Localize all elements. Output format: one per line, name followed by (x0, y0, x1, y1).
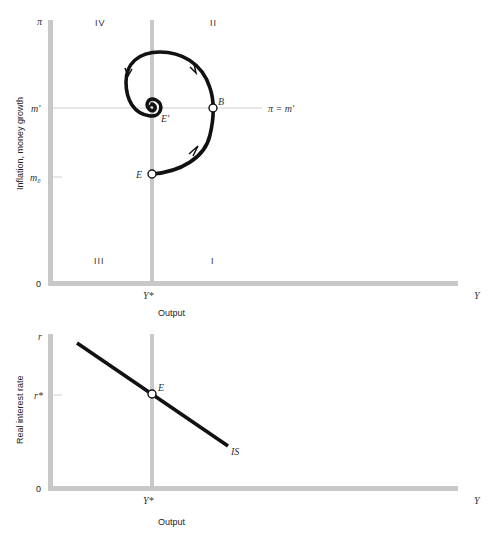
tick-ystar: Y* (143, 290, 154, 301)
tick-origin: 0 (36, 279, 41, 289)
quadrant-iv: IV (95, 18, 106, 28)
quadrant-i: I (211, 256, 215, 266)
top-y-axis (48, 20, 53, 286)
label-is: IS (230, 446, 239, 457)
top-x-axis-label: Output (158, 308, 186, 318)
tick-pi: π (37, 16, 43, 27)
diagram-canvas: E B E′ π = m′ π m′ m₀ 0 Y* Y IV II III I… (0, 0, 498, 537)
top-diagram: E B E′ π = m′ π m′ m₀ 0 Y* Y IV II III I… (15, 16, 481, 318)
label-pi-equals-m: π = m′ (268, 103, 295, 114)
top-ystar-line (150, 20, 154, 281)
bottom-diagram: E IS r r* 0 Y* Y Output Real interest ra… (15, 331, 481, 527)
bottom-y-axis-label: Real interest rate (15, 375, 25, 444)
point-e (148, 170, 156, 178)
bottom-x-axis-label: Output (158, 517, 186, 527)
tick-r: r (38, 331, 42, 342)
bottom-ystar-line (150, 334, 154, 486)
bottom-x-axis (48, 486, 458, 491)
bottom-y-axis (48, 334, 53, 491)
quadrant-iii: III (94, 256, 105, 266)
tick-origin-bottom: 0 (36, 484, 41, 494)
tick-ystar-bottom: Y* (143, 495, 154, 506)
tick-m0: m₀ (30, 172, 41, 183)
point-b (209, 104, 217, 112)
tick-r-star: r* (34, 390, 43, 401)
arrow-up-icon (189, 146, 198, 156)
top-y-axis-label: Inflation, money growth (15, 97, 25, 190)
tick-y: Y (474, 290, 481, 301)
tick-y-bottom: Y (474, 495, 481, 506)
quadrant-ii: II (210, 18, 217, 28)
label-e: E (135, 169, 142, 180)
top-x-axis (48, 281, 458, 286)
adjustment-spiral (126, 52, 213, 174)
tick-m-prime: m′ (31, 103, 41, 114)
point-e-bottom (148, 390, 156, 398)
label-e-bottom: E (157, 382, 164, 393)
label-b: B (218, 96, 224, 107)
label-e-prime: E′ (160, 113, 170, 124)
